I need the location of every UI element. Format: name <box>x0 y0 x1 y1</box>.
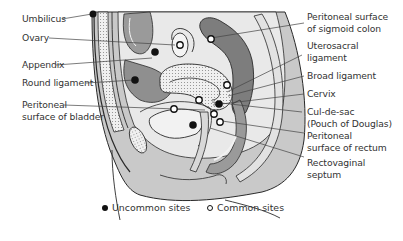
label-round-ligament: Round ligament <box>22 77 93 89</box>
label-peritoneal-surface-sigmoid-colon: Peritoneal surface of sigmoid colon <box>307 11 388 35</box>
label-cervix: Cervix <box>307 88 336 100</box>
label-text: (Pouch of Douglas) <box>307 118 392 130</box>
label-uterosacral-ligament: Uterosacral ligament <box>307 40 359 64</box>
label-text: ligament <box>307 52 359 64</box>
marker-sigmoid <box>208 36 214 42</box>
label-text: septum <box>307 169 365 181</box>
label-text: surface of rectum <box>307 142 387 154</box>
marker-umbilicus <box>90 11 97 18</box>
marker-rectum <box>217 119 223 125</box>
legend-label: Common sites <box>217 202 284 213</box>
label-rectovaginal-septum: Rectovaginal septum <box>307 157 365 181</box>
marker-bladder <box>171 106 177 112</box>
label-peritoneal-surface-bladder: Peritoneal surface of bladder <box>22 99 104 123</box>
label-peritoneal-surface-rectum: Peritoneal surface of rectum <box>307 130 387 154</box>
marker-rectovaginal <box>189 121 197 129</box>
label-text: Peritoneal <box>22 99 104 111</box>
marker-round-ligament <box>131 76 139 84</box>
marker-uterosacral <box>224 82 230 88</box>
filled-circle-icon <box>102 205 108 211</box>
label-text: Cul-de-sac <box>307 106 392 118</box>
label-text: surface of bladder <box>22 111 104 123</box>
label-text: Appendix <box>22 59 64 70</box>
marker-ovary <box>177 42 183 48</box>
open-circle-icon <box>207 205 213 211</box>
label-text: Broad ligament <box>307 70 376 81</box>
label-umbilicus: Umbilicus <box>22 13 66 25</box>
label-text: Uterosacral <box>307 40 359 52</box>
label-ovary: Ovary <box>22 32 49 44</box>
marker-cervix <box>215 100 223 108</box>
marker-appendix <box>151 48 159 56</box>
label-text: of sigmoid colon <box>307 23 388 35</box>
label-text: Round ligament <box>22 77 93 88</box>
label-text: Rectovaginal <box>307 157 365 169</box>
marker-broad-ligament <box>196 97 202 103</box>
label-text: Ovary <box>22 32 49 43</box>
legend-label: Uncommon sites <box>112 202 190 213</box>
label-text: Peritoneal <box>307 130 387 142</box>
label-cul-de-sac: Cul-de-sac (Pouch of Douglas) <box>307 106 392 130</box>
label-appendix: Appendix <box>22 59 64 71</box>
legend-common: Common sites <box>207 202 284 213</box>
marker-cul-de-sac <box>211 111 217 117</box>
pelvic-diagram: Umbilicus Ovary Appendix Round ligament … <box>0 0 403 241</box>
label-text: Cervix <box>307 88 336 99</box>
label-broad-ligament: Broad ligament <box>307 70 376 82</box>
legend-uncommon: Uncommon sites <box>102 202 190 213</box>
label-text: Umbilicus <box>22 13 66 24</box>
label-text: Peritoneal surface <box>307 11 388 23</box>
